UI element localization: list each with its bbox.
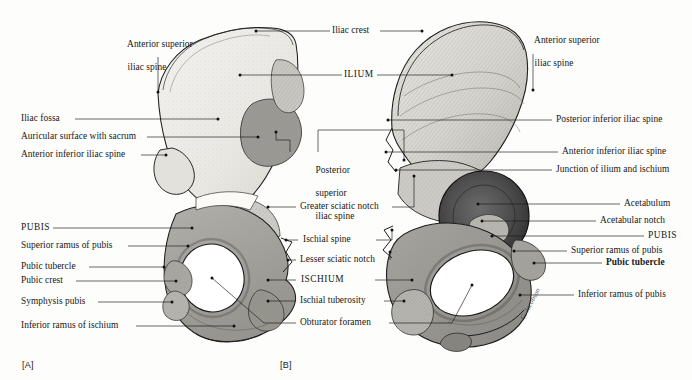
- label-superior-ramus-of-pubis-b: Superior ramus of pubis: [571, 245, 663, 257]
- label-line-1: Anterior superior: [127, 39, 193, 49]
- label-anterior-inferior-iliac-spine-b: Anterior inferior iliac spine: [562, 146, 666, 158]
- label-superior-ramus-of-pubis-a: Superior ramus of pubis: [21, 240, 113, 252]
- caption-panel-a: [A]: [22, 360, 34, 370]
- label-iliac-fossa: Iliac fossa: [21, 113, 60, 125]
- label-acetabulum: Acetabulum: [624, 198, 670, 210]
- label-ilium: ILIUM: [344, 69, 374, 81]
- label-greater-sciatic-notch: Greater sciatic notch: [300, 201, 379, 213]
- label-lesser-sciatic-notch: Lesser sciatic notch: [300, 254, 375, 266]
- label-anterior-superior-iliac-spine-b: Anterior superior iliac spine: [525, 23, 600, 81]
- label-pubic-tubercle-b: Pubic tubercle: [606, 257, 665, 269]
- label-auricular-surface-with-sacrum: Auricular surface with sacrum: [21, 131, 136, 143]
- label-inferior-ramus-of-pubis: Inferior ramus of pubis: [578, 289, 666, 301]
- caption-panel-b: [B]: [280, 360, 292, 370]
- label-pubis-b: PUBIS: [648, 230, 677, 242]
- label-pubic-tubercle-a: Pubic tubercle: [21, 261, 76, 273]
- label-iliac-crest: Iliac crest: [332, 25, 369, 37]
- label-line-2: iliac spine: [535, 58, 574, 68]
- label-obturator-foramen: Obturator foramen: [300, 317, 371, 329]
- label-anterior-superior-iliac-spine-a: Anterior superior iliac spine: [118, 27, 193, 85]
- label-inferior-ramus-of-ischium: Inferior ramus of ischium: [21, 320, 118, 332]
- label-ischium: ISCHIUM: [301, 274, 344, 286]
- label-acetabular-notch: Acetabular notch: [600, 215, 665, 227]
- label-pubis-a: PUBIS: [21, 222, 50, 234]
- label-line-2: superior: [316, 188, 347, 198]
- label-junction-of-ilium-and-ischium: Junction of ilium and ischium: [556, 164, 669, 176]
- label-symphysis-pubis: Symphysis pubis: [21, 296, 86, 308]
- label-posterior-superior-iliac-spine: Posterior superior iliac spine: [306, 153, 354, 234]
- label-line-1: Anterior superior: [534, 35, 600, 45]
- label-ischial-tuberosity: Ischial tuberosity: [300, 295, 366, 307]
- label-posterior-inferior-iliac-spine: Posterior inferior iliac spine: [556, 114, 662, 126]
- label-ischial-spine: Ischial spine: [303, 234, 351, 246]
- label-anterior-inferior-iliac-spine-a: Anterior inferior iliac spine: [21, 149, 125, 161]
- label-line-1: Posterior: [316, 165, 350, 175]
- label-line-2: iliac spine: [128, 62, 167, 72]
- anatomical-plate: C. Jacobson: [0, 0, 692, 380]
- hip-bone-panel-b: [383, 22, 546, 352]
- label-pubic-crest: Pubic crest: [21, 275, 63, 287]
